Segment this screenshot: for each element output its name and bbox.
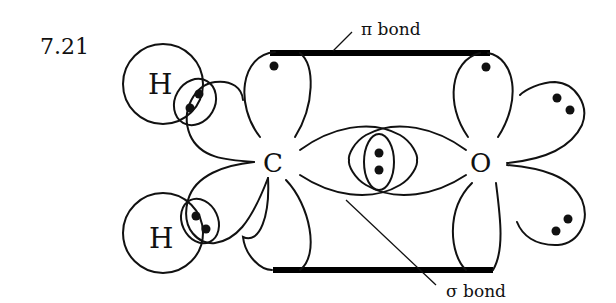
sigma-bond-label: σ bond (446, 281, 506, 301)
oxygen-p-lobe-bottom-left (453, 183, 472, 270)
carbon-orbitals (186, 52, 417, 270)
c-h-bottom-electron-1 (192, 212, 201, 221)
oxygen-p-lobe-top-right (488, 53, 513, 137)
hydrogen-bottom-label: H (149, 222, 173, 255)
oxygen-lone-pair-lobe-upper (507, 82, 584, 163)
oxygen-p-lobe-bottom-right (493, 183, 501, 270)
carbon-p-electron (270, 62, 279, 71)
oxygen-atom-label: O (470, 148, 491, 178)
figure-number: 7.21 (40, 34, 89, 59)
c-o-sigma-electron-1 (375, 149, 384, 158)
c-h-bottom-sigma-overlap (174, 193, 226, 250)
c-h-top-sigma-overlap (166, 71, 225, 133)
hydrogen-top-label: H (148, 68, 172, 101)
oxygen-lone-pair-lower-electron-1 (552, 227, 561, 236)
carbon-sp2-lobe-right-bottom (300, 160, 417, 195)
carbon-sp2-lobe-lower-left (186, 162, 268, 243)
oxygen-p-lobe-top-left (454, 53, 480, 137)
oxygen-orbitals (349, 53, 585, 270)
pi-bond-label: π bond (361, 19, 421, 39)
c-h-top-electron-2 (186, 104, 195, 113)
oxygen-lone-pair-lower-electron-2 (564, 215, 573, 224)
oxygen-lone-pair-upper-electron-1 (553, 94, 562, 103)
c-o-sigma-electron-2 (375, 166, 384, 175)
oxygen-p-electron (482, 63, 491, 72)
carbon-atom-label: C (263, 148, 283, 178)
c-o-sigma-overlap (364, 134, 394, 190)
oxygen-lone-pair-lobe-lower (507, 165, 585, 245)
c-h-bottom-electron-2 (202, 225, 211, 234)
carbon-sp2-lobe-right-top (300, 126, 417, 160)
oxygen-sp2-lobe-left-top (349, 126, 466, 160)
carbon-p-lobe-bottom-right (286, 180, 311, 270)
c-h-top-electron-1 (195, 90, 204, 99)
pi-bond-leader-line (333, 32, 352, 51)
carbon-p-lobe-bottom-left (243, 178, 272, 270)
carbon-p-lobe-top-right (295, 53, 311, 137)
formaldehyde-orbital-diagram: 7.21 π bond σ bond C (0, 0, 616, 303)
oxygen-lone-pair-upper-electron-2 (566, 106, 575, 115)
